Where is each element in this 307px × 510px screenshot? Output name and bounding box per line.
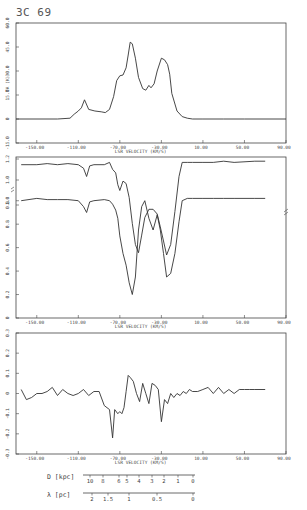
lambda-scale: λ [pc]21.510.50 bbox=[47, 491, 195, 502]
y-tick-label: -0.3 bbox=[5, 448, 10, 459]
y-tick-label: 0 bbox=[5, 392, 10, 395]
x-tick-label: 90.00 bbox=[277, 320, 291, 325]
series-line bbox=[16, 42, 286, 119]
y-tick-label: -0.2 bbox=[5, 428, 10, 439]
y-tick-label: -0.1 bbox=[5, 408, 10, 419]
distance-scale-tick: 1 bbox=[176, 478, 179, 484]
y-tick-label: 60.0 bbox=[5, 17, 10, 28]
distance-scale-tick: 4 bbox=[137, 478, 141, 484]
plot-frame bbox=[16, 23, 286, 143]
y-tick-label: 45.0 bbox=[5, 41, 10, 52]
y-tick-label: 0 bbox=[5, 117, 10, 120]
y-tick-label: 1.2 bbox=[5, 155, 10, 163]
distance-scale-tick: 6 bbox=[117, 478, 120, 484]
y-tick-label: 0.6 bbox=[5, 243, 10, 251]
plot-frame bbox=[16, 157, 286, 318]
x-tick-label: -150.00 bbox=[25, 145, 44, 150]
series-line bbox=[21, 161, 265, 255]
distance-scale-tick: 8 bbox=[101, 478, 104, 484]
x-axis-label: LSR VELOCITY (KM/S) bbox=[115, 460, 166, 465]
y-tick-label: 0.2 bbox=[5, 290, 10, 298]
panel-difference: -150.00-110.00-70.00-30.0010.0050.0090.0… bbox=[5, 329, 291, 465]
distance-scale-tick: 5 bbox=[125, 478, 128, 484]
x-tick-label: 50.00 bbox=[236, 145, 250, 150]
x-tick-label: -150.00 bbox=[25, 456, 44, 461]
x-tick-label: 10.00 bbox=[194, 145, 208, 150]
lambda-scale-tick: 0 bbox=[191, 496, 194, 502]
y-tick-label: 0.8 bbox=[5, 220, 10, 228]
y-tick-label: 0.3 bbox=[5, 329, 10, 337]
x-axis-label: LSR VELOCITY (KM/S) bbox=[115, 324, 166, 329]
y-tick-label: 0.8 bbox=[5, 201, 10, 209]
x-tick-label: 10.00 bbox=[194, 320, 208, 325]
lambda-scale-tick: 2 bbox=[90, 496, 93, 502]
axis-break-icon bbox=[11, 187, 14, 192]
y-tick-label: 30.0 bbox=[5, 65, 10, 76]
x-tick-label: -110.00 bbox=[67, 320, 86, 325]
distance-scale: D [kpc]1086543210 bbox=[47, 473, 195, 484]
y-axis-label: TA (K) bbox=[5, 76, 10, 92]
figure: -150.00-110.00-70.00-30.0010.0050.0090.0… bbox=[0, 0, 307, 510]
y-tick-label: 0.4 bbox=[5, 267, 10, 275]
distance-scale-tick: 0 bbox=[191, 478, 194, 484]
x-axis-label: LSR VELOCITY (KM/S) bbox=[115, 149, 166, 154]
x-tick-label: 90.00 bbox=[277, 456, 291, 461]
distance-scale-tick: 2 bbox=[162, 478, 165, 484]
x-tick-label: -110.00 bbox=[67, 456, 86, 461]
x-tick-label: 50.00 bbox=[236, 320, 250, 325]
panel-emission: -150.00-110.00-70.00-30.0010.0050.0090.0… bbox=[5, 17, 291, 154]
y-tick-label: 1.0 bbox=[5, 176, 10, 184]
lambda-scale-tick: 1 bbox=[127, 496, 130, 502]
x-tick-label: -150.00 bbox=[25, 320, 44, 325]
lambda-scale-label: λ [pc] bbox=[47, 491, 70, 499]
lambda-scale-tick: 1.5 bbox=[103, 496, 113, 502]
x-tick-label: 50.00 bbox=[236, 456, 250, 461]
series-line bbox=[21, 198, 265, 294]
distance-scale-label: D [kpc] bbox=[47, 473, 74, 481]
x-tick-label: 10.00 bbox=[194, 456, 208, 461]
y-tick-label: 0.2 bbox=[5, 349, 10, 357]
distance-scale-tick: 3 bbox=[150, 478, 153, 484]
x-tick-label: -110.00 bbox=[67, 145, 86, 150]
lambda-scale-tick: 0.5 bbox=[152, 496, 162, 502]
y-tick-label: 0.1 bbox=[5, 369, 10, 377]
x-tick-label: 90.00 bbox=[277, 145, 291, 150]
distance-scale-tick: 10 bbox=[87, 478, 94, 484]
series-line bbox=[21, 375, 265, 438]
y-tick-label: 0 bbox=[5, 316, 10, 319]
panel-absorption: -150.00-110.00-70.00-30.0010.0050.0090.0… bbox=[5, 155, 291, 329]
y-tick-label: -15.0 bbox=[5, 136, 10, 150]
